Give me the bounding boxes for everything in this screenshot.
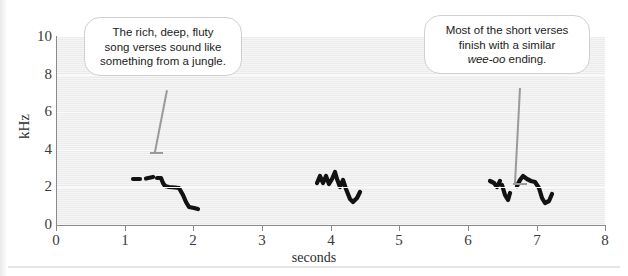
trace-verse-1-dash-b [146,177,153,179]
x-tick-mark-4 [331,225,332,231]
x-tick-mark-2 [193,225,194,231]
scan-edge-artifact [0,0,7,276]
figure-page: 0 2 4 6 8 10 kHz 0 1 2 3 4 5 6 7 8 secon… [0,0,628,276]
y-axis-line [56,36,57,226]
x-tick-3: 3 [250,232,274,249]
trace-verse-3-a [490,181,500,187]
x-tick-mark-8 [605,225,606,231]
callout-2-leader-tick [513,183,527,185]
y-tick-10: 10 [26,28,52,45]
callout-1-leader-tick [150,152,163,154]
trace-verse-1-main [157,178,198,209]
x-tick-mark-7 [537,225,538,231]
x-tick-mark-1 [125,225,126,231]
y-tick-8: 8 [26,66,52,83]
x-tick-4: 4 [319,232,343,249]
x-axis-title: seconds [0,250,628,266]
y-axis-title: kHz [16,97,33,157]
x-tick-7: 7 [525,232,549,249]
callout-1-line-1: The rich, deep, fluty [94,25,232,40]
x-tick-1: 1 [113,232,137,249]
y-tick-0: 0 [26,216,52,233]
y-tick-2: 2 [26,178,52,195]
gridline-4khz [57,150,605,151]
callout-1-line-2: song verses sound like [94,40,232,55]
callout-2-line-1: Most of the short verses [434,23,580,38]
x-tick-mark-0 [56,225,57,231]
callout-bubble-weeoo: Most of the short verses finish with a s… [424,15,590,74]
callout-2-line-2: finish with a similar [434,38,580,53]
gridline-2khz [57,187,605,188]
callout-1-line-3: something from a jungle. [94,54,232,69]
x-tick-0: 0 [44,232,68,249]
scan-rule-artifact [8,266,620,268]
callout-2-line-3: wee-oo ending. [434,52,580,67]
callout-2-italic-term: wee-oo [468,53,506,65]
gridline-6khz [57,112,605,113]
x-tick-8: 8 [593,232,617,249]
callout-bubble-jungle: The rich, deep, fluty song verses sound … [84,17,242,76]
x-tick-5: 5 [387,232,411,249]
callout-2-line-3-tail: ending. [505,53,546,65]
trace-verse-3-main [517,176,552,203]
x-tick-6: 6 [456,232,480,249]
x-tick-mark-3 [262,225,263,231]
x-tick-mark-5 [399,225,400,231]
x-tick-mark-6 [468,225,469,231]
x-tick-2: 2 [181,232,205,249]
cropped-caption-text [72,0,492,5]
